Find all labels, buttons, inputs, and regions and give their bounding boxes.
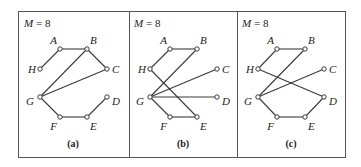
edge-H-A bbox=[40, 49, 60, 69]
node-label-H: H bbox=[27, 63, 37, 75]
node-A bbox=[58, 47, 62, 51]
node-F bbox=[275, 115, 279, 119]
node-label-G: G bbox=[244, 95, 252, 107]
node-C bbox=[215, 67, 219, 71]
node-E bbox=[85, 115, 89, 119]
node-D bbox=[105, 95, 109, 99]
figure-frame bbox=[19, 11, 346, 158]
node-B bbox=[195, 47, 199, 51]
node-label-H: H bbox=[245, 63, 255, 75]
panel-a: M = 8 ABHCGDFE (a) bbox=[23, 17, 120, 150]
node-label-A: A bbox=[159, 34, 167, 46]
node-label-E: E bbox=[89, 120, 97, 132]
edge-C-G bbox=[40, 69, 107, 97]
node-B bbox=[303, 47, 307, 51]
graph-figure: M = 8 ABHCGDFE (a) M = 8 ABHCGDFE (b) M … bbox=[0, 0, 361, 167]
edge-H-A bbox=[150, 49, 170, 69]
edge-G-F bbox=[150, 97, 170, 117]
edge-G-B bbox=[258, 49, 305, 97]
node-C bbox=[322, 67, 326, 71]
panel-c-title: M = 8 bbox=[241, 17, 269, 29]
edge-G-F bbox=[40, 97, 60, 117]
node-C bbox=[105, 67, 109, 71]
edge-G-B bbox=[150, 49, 197, 97]
node-label-B: B bbox=[90, 34, 97, 46]
node-label-D: D bbox=[111, 95, 120, 107]
panel-c: M = 8 ABHCGDFE (c) bbox=[241, 17, 337, 150]
node-label-F: F bbox=[159, 120, 167, 132]
panel-c-edges bbox=[258, 49, 324, 117]
node-label-C: C bbox=[222, 63, 230, 75]
node-label-G: G bbox=[26, 95, 34, 107]
node-label-B: B bbox=[308, 34, 315, 46]
node-label-E: E bbox=[307, 120, 315, 132]
node-label-D: D bbox=[328, 95, 337, 107]
node-E bbox=[303, 115, 307, 119]
node-G bbox=[38, 95, 42, 99]
node-D bbox=[322, 95, 326, 99]
node-label-A: A bbox=[266, 34, 274, 46]
node-label-E: E bbox=[199, 120, 207, 132]
node-label-G: G bbox=[136, 95, 144, 107]
edge-B-C bbox=[87, 49, 107, 69]
node-G bbox=[256, 95, 260, 99]
panel-a-edges bbox=[40, 49, 107, 117]
panel-a-title: M = 8 bbox=[23, 17, 51, 29]
node-label-A: A bbox=[49, 34, 57, 46]
node-H bbox=[256, 67, 260, 71]
edge-G-F bbox=[258, 97, 277, 117]
panel-b-title: M = 8 bbox=[133, 17, 161, 29]
node-label-B: B bbox=[200, 34, 207, 46]
node-H bbox=[38, 67, 42, 71]
node-label-C: C bbox=[329, 63, 337, 75]
node-A bbox=[275, 47, 279, 51]
edge-G-C bbox=[150, 69, 217, 97]
node-E bbox=[195, 115, 199, 119]
node-H bbox=[148, 67, 152, 71]
frame-border bbox=[19, 12, 346, 158]
edge-H-A bbox=[258, 49, 277, 69]
node-D bbox=[215, 95, 219, 99]
node-label-H: H bbox=[137, 63, 147, 75]
panel-a-caption: (a) bbox=[67, 138, 79, 150]
node-B bbox=[85, 47, 89, 51]
edge-E-D bbox=[305, 97, 324, 117]
edge-H-E bbox=[150, 69, 197, 117]
node-label-C: C bbox=[112, 63, 120, 75]
node-label-F: F bbox=[49, 120, 57, 132]
node-F bbox=[168, 115, 172, 119]
panel-c-caption: (c) bbox=[285, 138, 296, 150]
node-F bbox=[58, 115, 62, 119]
node-G bbox=[148, 95, 152, 99]
node-label-D: D bbox=[221, 95, 230, 107]
node-label-F: F bbox=[266, 120, 274, 132]
panel-b: M = 8 ABHCGDFE (b) bbox=[133, 17, 230, 150]
edge-B-G bbox=[40, 49, 87, 97]
node-A bbox=[168, 47, 172, 51]
edge-E-D bbox=[87, 97, 107, 117]
panel-b-edges bbox=[150, 49, 217, 117]
panel-b-caption: (b) bbox=[177, 138, 189, 150]
